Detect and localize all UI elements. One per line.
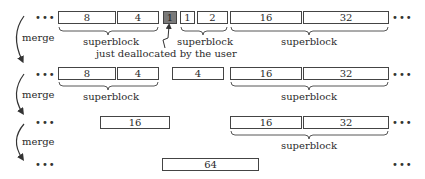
merge-arrows — [0, 0, 425, 179]
superblock-label: superblock — [83, 36, 139, 47]
block-64-merged: 64 — [162, 158, 259, 171]
block-32: 32 — [303, 11, 389, 24]
brace — [231, 82, 388, 90]
brace — [231, 27, 388, 35]
brace — [59, 27, 158, 35]
brace — [59, 82, 158, 90]
block-4-merged: 4 — [172, 67, 224, 80]
block-2: 2 — [197, 11, 228, 24]
merge-label: merge — [22, 136, 55, 147]
brace — [181, 27, 227, 35]
ellipsis-left: ••• — [35, 13, 56, 23]
superblock-label: superblock — [177, 36, 233, 47]
block-16: 16 — [230, 11, 302, 24]
ellipsis-right: ••• — [392, 70, 413, 80]
block-16: 16 — [230, 116, 302, 129]
ellipsis-left: ••• — [35, 160, 56, 170]
ellipsis-left: ••• — [35, 118, 56, 128]
ellipsis-right: ••• — [392, 13, 413, 23]
block-32: 32 — [303, 116, 389, 129]
block-4: 4 — [117, 11, 159, 24]
block-16-merged: 16 — [100, 116, 170, 129]
dealloc-pointer-arrow — [163, 26, 169, 48]
ellipsis-right: ••• — [392, 118, 413, 128]
ellipsis-right: ••• — [392, 160, 413, 170]
block-8: 8 — [58, 67, 116, 80]
brace — [231, 131, 388, 139]
superblock-label: superblock — [281, 36, 337, 47]
dealloc-annotation: just deallocated by the user — [96, 48, 237, 59]
merge-label: merge — [22, 89, 55, 100]
ellipsis-left: ••• — [35, 70, 56, 80]
block-16: 16 — [230, 67, 302, 80]
superblock-label: superblock — [83, 91, 139, 102]
block-8: 8 — [58, 11, 116, 24]
superblock-label: superblock — [281, 140, 337, 151]
superblock-label: superblock — [281, 91, 337, 102]
merge-label: merge — [22, 32, 55, 43]
block-1-deallocated: 1 — [163, 11, 177, 24]
block-1: 1 — [180, 11, 195, 24]
block-32: 32 — [303, 67, 389, 80]
block-4: 4 — [117, 67, 159, 80]
